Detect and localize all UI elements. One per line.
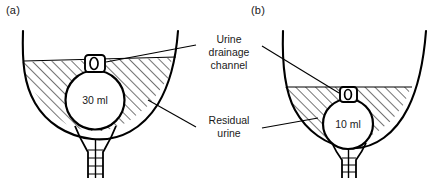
panel-b-artwork	[260, 0, 435, 178]
catheter-drainage-eye-b	[340, 87, 357, 102]
figure-urinary-catheter-balloon: (a) (b) Urine drainage channel Residual …	[0, 0, 435, 178]
panel-label-a: (a)	[6, 4, 20, 16]
diagram-artwork	[0, 0, 435, 178]
catheter-drainage-eye-a	[85, 55, 105, 72]
callout-urine-drainage-channel: Urine drainage channel	[198, 33, 260, 72]
panel-a-artwork	[0, 0, 220, 178]
panel-label-b: (b)	[251, 4, 265, 16]
balloon-volume-label-b: 10 ml	[324, 118, 372, 130]
balloon-volume-label-a: 30 ml	[70, 94, 120, 106]
callout-residual-urine: Residual urine	[198, 114, 260, 140]
